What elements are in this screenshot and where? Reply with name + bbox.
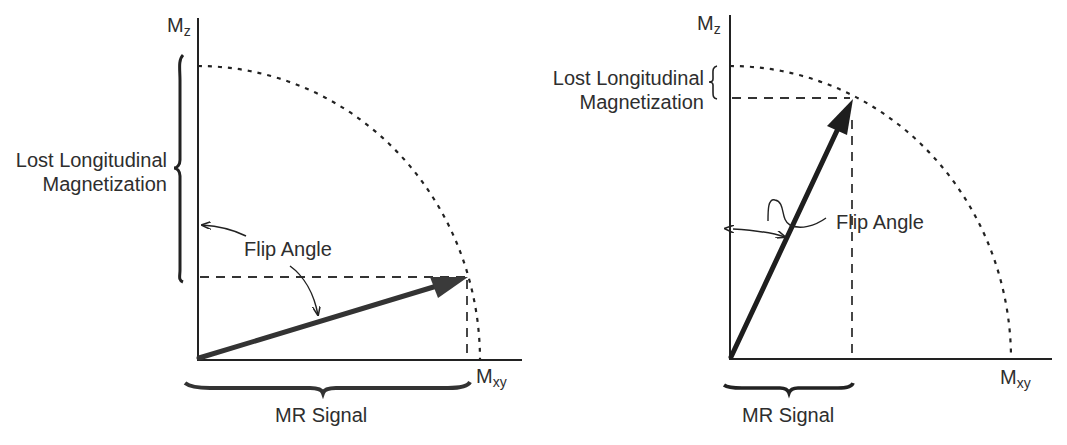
left-mxy-axis-label: Mxy: [476, 365, 507, 390]
right-panel: [709, 15, 1052, 393]
right-magnetization-vector: [731, 120, 842, 357]
right-mz-axis-label: Mz: [697, 12, 721, 37]
right-lost-magnetization-label: Lost Longitudinal Magnetization: [540, 66, 704, 114]
right-flip-angle-arc: [733, 229, 785, 237]
left-mz-subscript: z: [184, 23, 191, 39]
right-vector-arrowhead-icon: [827, 99, 853, 135]
left-flip-angle-pointer-axis: [202, 225, 246, 236]
right-mxy-symbol: M: [1000, 366, 1017, 388]
right-mxy-subscript: xy: [1017, 375, 1031, 391]
left-mxy-symbol: M: [476, 365, 493, 387]
left-mr-signal-label: MR Signal: [275, 403, 367, 427]
right-lost-label-line1: Lost Longitudinal: [540, 66, 704, 90]
left-flip-angle-pointer-vector: [290, 266, 318, 315]
left-lost-brace: [174, 55, 183, 282]
right-lost-brace: [709, 66, 717, 99]
right-mz-symbol: M: [697, 12, 714, 34]
right-flip-angle-label: Flip Angle: [836, 210, 924, 234]
left-mxy-subscript: xy: [493, 374, 507, 390]
left-magnetization-vector: [199, 282, 450, 358]
left-lost-label-line2: Magnetization: [10, 172, 167, 196]
left-vector-arrowhead-icon: [430, 277, 468, 298]
right-mr-signal-label: MR Signal: [742, 403, 834, 427]
left-lost-magnetization-label: Lost Longitudinal Magnetization: [10, 148, 167, 196]
left-mz-symbol: M: [167, 14, 184, 36]
left-mz-axis-label: Mz: [167, 14, 191, 39]
right-lost-label-line2: Magnetization: [540, 90, 704, 114]
left-panel: [174, 18, 522, 393]
left-flip-angle-label: Flip Angle: [244, 237, 332, 261]
right-mxy-axis-label: Mxy: [1000, 366, 1031, 391]
right-mz-subscript: z: [714, 21, 721, 37]
left-signal-brace: [185, 382, 470, 393]
left-lost-label-line1: Lost Longitudinal: [10, 148, 167, 172]
right-signal-brace: [724, 383, 853, 393]
